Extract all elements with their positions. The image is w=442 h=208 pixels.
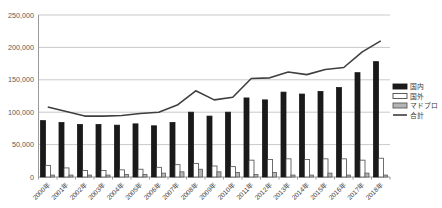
legend-swatch-domestic <box>393 84 407 89</box>
x-axis-tick-label: 2014年 <box>289 180 311 202</box>
bar-madpro <box>69 175 73 177</box>
x-axis-tick-label: 2001年 <box>49 180 71 202</box>
bar-foreign <box>46 165 51 177</box>
bar-foreign <box>249 160 254 177</box>
bar-madpro <box>236 172 240 177</box>
bar-domestic <box>78 125 83 177</box>
bar-madpro <box>310 175 314 177</box>
bar-foreign <box>64 168 69 177</box>
bar-domestic <box>281 92 286 177</box>
bar-domestic <box>133 124 138 177</box>
bar-foreign <box>268 160 273 177</box>
legend-swatch-madpro <box>393 103 407 108</box>
bar-foreign <box>360 160 365 177</box>
bar-foreign <box>231 167 236 177</box>
bar-foreign <box>83 171 88 177</box>
bar-foreign <box>157 167 162 177</box>
bar-domestic <box>41 121 46 177</box>
bar-madpro <box>384 175 388 177</box>
bar-domestic <box>170 123 175 177</box>
legend-label: マドプロ <box>410 102 438 109</box>
bar-foreign <box>175 165 180 177</box>
bar-foreign <box>286 159 291 177</box>
bar-madpro <box>365 173 369 177</box>
bar-domestic <box>152 126 157 177</box>
bar-foreign <box>120 170 125 177</box>
x-axis-tick-label: 2003年 <box>86 180 108 202</box>
bar-domestic <box>318 91 323 177</box>
x-axis-tick-label: 2007年 <box>160 180 182 202</box>
bar-madpro <box>291 175 295 177</box>
chart-figure: 050,000100,000150,000200,000250,0002000年… <box>0 0 442 208</box>
x-axis-tick-label: 2012年 <box>252 180 274 202</box>
bar-foreign <box>305 160 310 177</box>
x-axis-tick-label: 2006年 <box>141 180 163 202</box>
y-axis-tick-label: 50,000 <box>12 140 34 149</box>
total-line <box>48 41 381 116</box>
y-axis-tick-label: 150,000 <box>8 75 34 84</box>
y-axis-tick-label: 200,000 <box>8 43 34 52</box>
bar-domestic <box>96 125 101 177</box>
x-axis-tick-label: 2000年 <box>30 180 52 202</box>
legend-label: 国内 <box>410 82 424 91</box>
x-axis-tick-label: 2010年 <box>215 180 237 202</box>
bar-madpro <box>180 172 184 177</box>
bar-foreign <box>101 171 106 177</box>
bar-foreign <box>323 159 328 177</box>
bar-madpro <box>51 175 55 177</box>
y-axis-tick-label: 250,000 <box>8 11 34 20</box>
x-axis-tick-label: 2015年 <box>308 180 330 202</box>
bar-domestic <box>374 62 379 177</box>
bar-domestic <box>59 123 64 177</box>
bar-domestic <box>300 94 305 177</box>
bar-domestic <box>207 116 212 177</box>
x-axis-tick-label: 2011年 <box>234 180 255 201</box>
bar-foreign <box>212 166 217 177</box>
x-axis-tick-label: 2002年 <box>67 180 89 202</box>
applications-combo-chart: 050,000100,000150,000200,000250,0002000年… <box>0 0 442 208</box>
x-axis-tick-label: 2016年 <box>326 180 348 202</box>
x-axis-tick-label: 2017年 <box>345 180 367 202</box>
x-axis-tick-label: 2005年 <box>123 180 145 202</box>
bar-foreign <box>194 163 199 177</box>
legend-label: 合計 <box>410 111 424 120</box>
x-axis-tick-label: 2018年 <box>363 180 385 202</box>
bar-madpro <box>273 172 277 177</box>
bar-madpro <box>328 173 332 177</box>
y-axis-tick-label: 100,000 <box>8 108 34 117</box>
y-axis-tick-label: 0 <box>30 173 34 182</box>
bar-domestic <box>226 112 231 177</box>
bar-foreign <box>342 159 347 177</box>
legend-swatch-foreign <box>393 94 407 99</box>
x-axis-tick-label: 2008年 <box>178 180 200 202</box>
bar-madpro <box>217 172 221 177</box>
x-axis-tick-label: 2009年 <box>197 180 219 202</box>
bar-madpro <box>106 175 110 177</box>
x-axis-tick-label: 2004年 <box>104 180 126 202</box>
bar-domestic <box>263 100 268 177</box>
bar-foreign <box>379 158 384 177</box>
bar-madpro <box>254 174 258 177</box>
bar-madpro <box>143 174 147 177</box>
legend-label: 国外 <box>410 92 424 101</box>
bar-madpro <box>199 169 203 177</box>
bar-madpro <box>88 175 92 177</box>
bar-domestic <box>337 88 342 177</box>
bar-domestic <box>355 73 360 177</box>
x-axis-tick-label: 2013年 <box>271 180 293 202</box>
bar-madpro <box>347 175 351 177</box>
bar-domestic <box>244 98 249 177</box>
bar-domestic <box>189 112 194 177</box>
bar-domestic <box>115 125 120 177</box>
bar-foreign <box>138 169 143 177</box>
bar-madpro <box>125 174 129 177</box>
bar-madpro <box>162 173 166 177</box>
